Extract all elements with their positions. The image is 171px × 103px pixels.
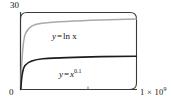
curve-label-ln-expression: ln x xyxy=(63,31,77,41)
y-axis-min-label: 0 xyxy=(9,88,14,97)
curve-label-x-power: y=x0.1 xyxy=(59,68,82,79)
x-axis-max-mantissa: 1 × 10 xyxy=(140,87,164,97)
y-axis-max-label: 30 xyxy=(10,1,19,10)
curve-label-pow-exponent: 0.1 xyxy=(74,68,82,74)
x-axis-max-exponent: 9 xyxy=(164,86,167,92)
x-axis-max-label: 1 × 109 xyxy=(140,86,167,96)
curve-label-ln-x: y=ln x xyxy=(52,32,77,41)
figure-ln-vs-power-plot: 30 0 1 × 109 y=ln x y=x0.1 xyxy=(0,0,171,103)
